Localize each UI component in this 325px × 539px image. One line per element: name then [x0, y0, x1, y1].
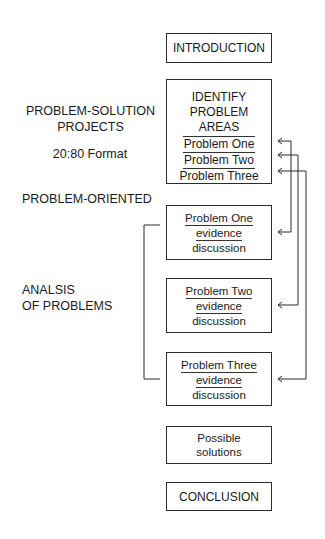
connector-lines: [0, 0, 325, 539]
connector-problem-three: [278, 171, 306, 379]
left-bracket: [144, 225, 160, 379]
